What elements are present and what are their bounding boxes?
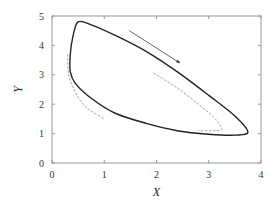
y-axis-label: Y: [11, 85, 25, 93]
data-series: [68, 21, 248, 135]
x-tick-label: 1: [102, 169, 107, 180]
plot-frame: [52, 16, 261, 163]
y-tick-label: 0: [39, 158, 44, 169]
phase-portrait-chart: 01234012345 XY: [0, 0, 279, 207]
y-tick-label: 3: [39, 69, 44, 80]
x-tick-label: 2: [154, 169, 159, 180]
y-tick-label: 1: [39, 128, 44, 139]
y-tick-label: 5: [39, 11, 44, 22]
axis-labels: XY: [11, 85, 161, 199]
x-tick-label: 0: [50, 169, 55, 180]
dashed-curve: [68, 54, 105, 119]
x-axis-label: X: [152, 185, 161, 199]
limit-cycle-curve: [70, 21, 248, 135]
y-tick-label: 2: [39, 99, 44, 110]
x-tick-label: 3: [206, 169, 211, 180]
x-tick-label: 4: [259, 169, 264, 180]
dashed-curve: [154, 73, 222, 130]
y-tick-label: 4: [39, 40, 44, 51]
